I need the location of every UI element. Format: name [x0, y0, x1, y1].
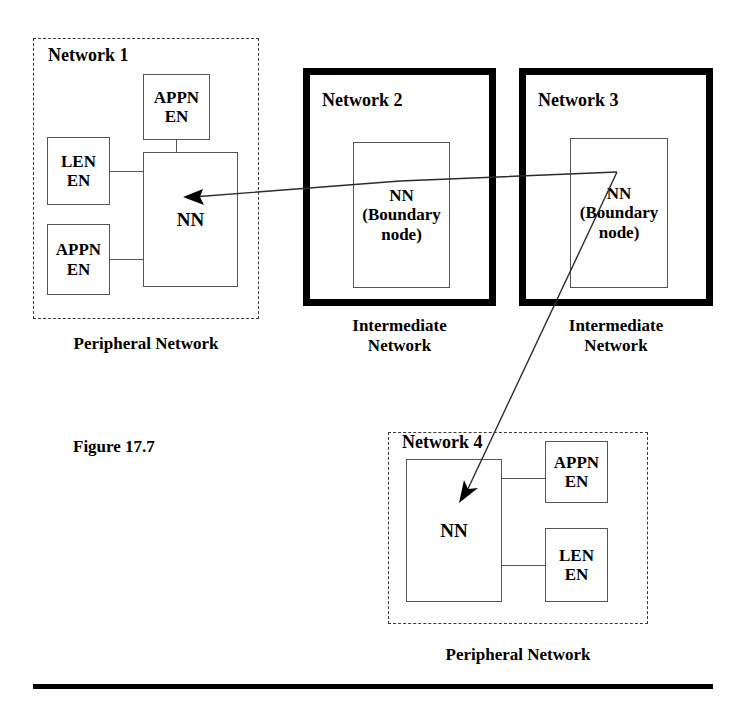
network-1-title: Network 1 [48, 45, 128, 66]
network-1-len-en-label: LEN EN [61, 152, 96, 190]
connector-nn4-to-len [502, 565, 546, 566]
connector-appn-top-to-nn [176, 140, 177, 153]
network-4-caption: Peripheral Network [388, 645, 648, 665]
network-3-title: Network 3 [538, 90, 618, 111]
network-4-appn-en: APPN EN [545, 441, 608, 503]
network-2-title: Network 2 [322, 90, 402, 111]
figure-container: Network 1 APPN EN LEN EN APPN EN NN Peri… [0, 0, 744, 703]
network-3-caption: Intermediate Network [519, 316, 713, 356]
network-4-nn: NN [406, 459, 502, 602]
connector-len-to-nn [110, 171, 144, 172]
network-1-len-en: LEN EN [47, 137, 110, 205]
figure-number: Figure 17.7 [73, 437, 155, 457]
network-1-caption: Peripheral Network [33, 334, 259, 354]
network-1-appn-en-top: APPN EN [143, 74, 210, 140]
network-1-appn-en-bottom-label: APPN EN [56, 240, 101, 278]
network-1-nn: NN [143, 152, 238, 287]
network-4-len-en: LEN EN [545, 528, 608, 602]
network-4-appn-en-label: APPN EN [554, 453, 599, 491]
network-4-nn-label: NN [440, 520, 467, 541]
network-3-boundary-nn-label: NN (Boundary node) [580, 184, 658, 241]
network-2-caption: Intermediate Network [303, 316, 496, 356]
network-1-nn-label: NN [177, 209, 204, 230]
bottom-horizontal-rule [33, 684, 713, 689]
connector-appn-bottom-to-nn [110, 259, 144, 260]
network-1-appn-en-bottom: APPN EN [47, 224, 110, 295]
network-4-title: Network 4 [402, 432, 482, 453]
network-2-boundary-nn: NN (Boundary node) [353, 142, 450, 288]
network-3-boundary-nn: NN (Boundary node) [570, 138, 668, 288]
network-2-boundary-nn-label: NN (Boundary node) [362, 186, 440, 243]
network-4-len-en-label: LEN EN [559, 546, 594, 584]
network-1-appn-en-top-label: APPN EN [154, 88, 199, 126]
connector-nn4-to-appn [502, 478, 546, 479]
